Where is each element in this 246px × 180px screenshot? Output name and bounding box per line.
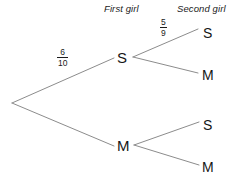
column-header-second-girl: Second girl [177,3,226,14]
node-first-girl-m: M [117,138,130,153]
branch-m-to-ms [134,122,199,145]
node-second-girl-sm: M [202,68,214,82]
branch-root-to-m [12,103,114,146]
node-second-girl-mm: M [202,160,214,174]
fraction-denominator: 9 [160,27,167,37]
probability-tree-diagram: First girl Second girl S M S M S M 6 10 … [0,0,246,180]
branch-m-to-mm [134,145,199,165]
branch-s-to-sm [133,57,198,73]
probability-label-first-branch: 6 10 [57,48,68,68]
fraction-numerator: 5 [160,18,167,27]
fraction-numerator: 6 [57,48,68,57]
column-header-first-girl: First girl [104,3,139,14]
node-second-girl-ms: S [203,118,212,132]
fraction-denominator: 10 [57,57,68,67]
node-first-girl-s: S [117,50,127,65]
probability-label-second-branch: 5 9 [160,18,167,38]
node-second-girl-ss: S [203,26,212,40]
